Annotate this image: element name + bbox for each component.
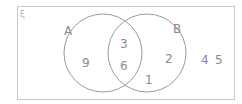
outside-value-1: 4 — [201, 53, 209, 67]
outside-value-2: 5 — [215, 53, 223, 67]
set-b-label: B — [173, 22, 181, 36]
intersection-value-2: 6 — [120, 59, 128, 73]
universal-set-symbol: ξ — [20, 9, 25, 19]
b-only-value-2: 1 — [145, 73, 153, 87]
a-only-value: 9 — [82, 56, 90, 70]
venn-diagram: ξ A B 9 3 6 2 1 4 5 — [0, 0, 242, 104]
set-a-label: A — [64, 24, 73, 38]
intersection-value-1: 3 — [120, 37, 128, 51]
b-only-value-1: 2 — [165, 52, 173, 66]
